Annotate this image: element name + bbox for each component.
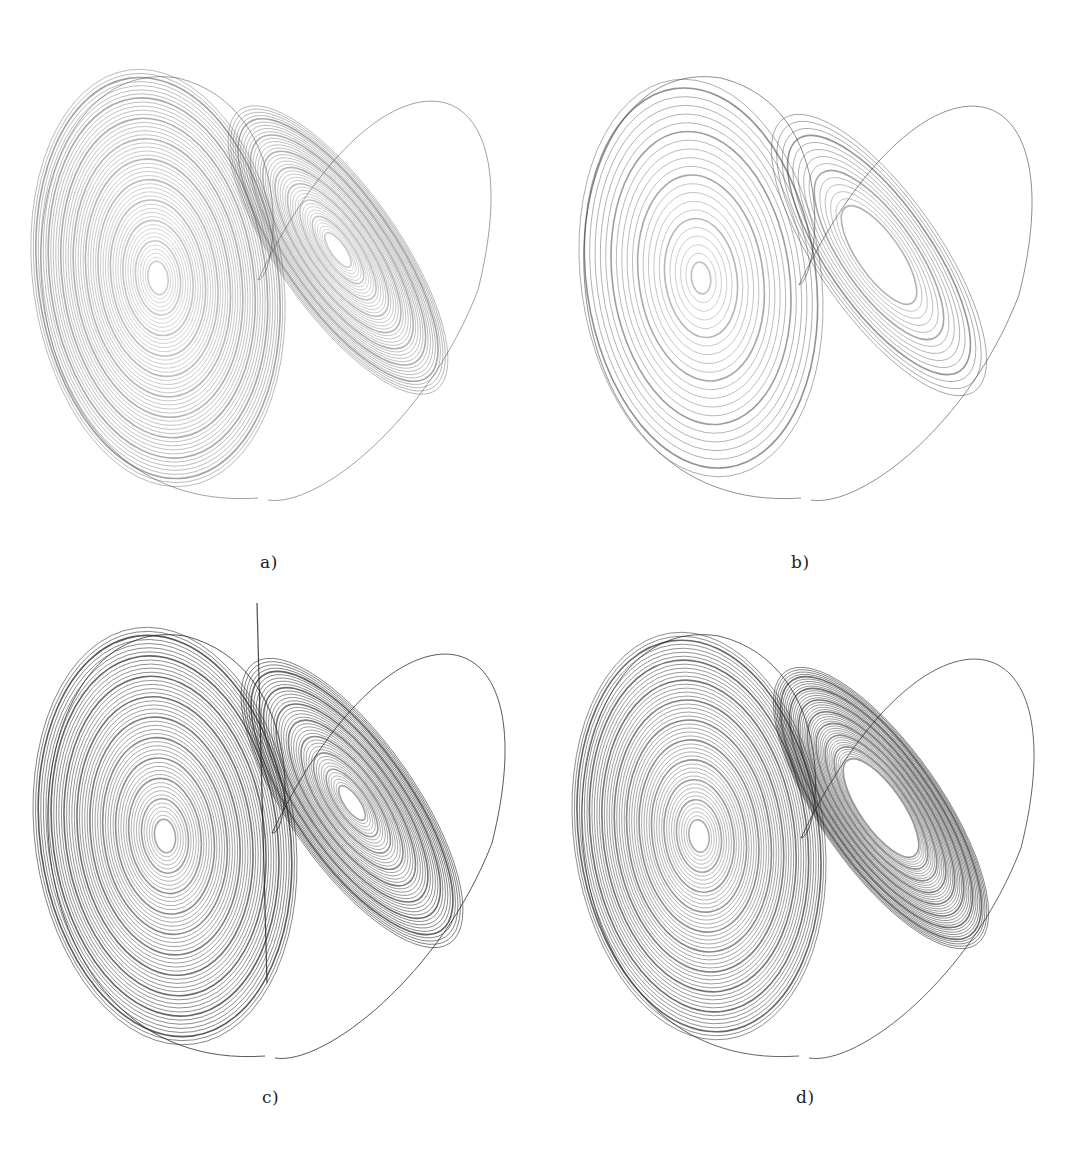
panel-d: d) (539, 583, 1078, 1166)
lorenz-attractor-b (539, 0, 1078, 583)
caption-d: d) (796, 1087, 815, 1107)
panel-b: b) (539, 0, 1078, 583)
lorenz-attractor-d (539, 583, 1078, 1166)
caption-c: c) (262, 1087, 279, 1107)
lorenz-attractor-c (0, 583, 539, 1166)
caption-a: a) (260, 552, 278, 572)
panel-a: a) (0, 0, 539, 583)
caption-b: b) (791, 552, 810, 572)
lorenz-attractor-a (0, 0, 539, 583)
panel-c: c) (0, 583, 539, 1166)
